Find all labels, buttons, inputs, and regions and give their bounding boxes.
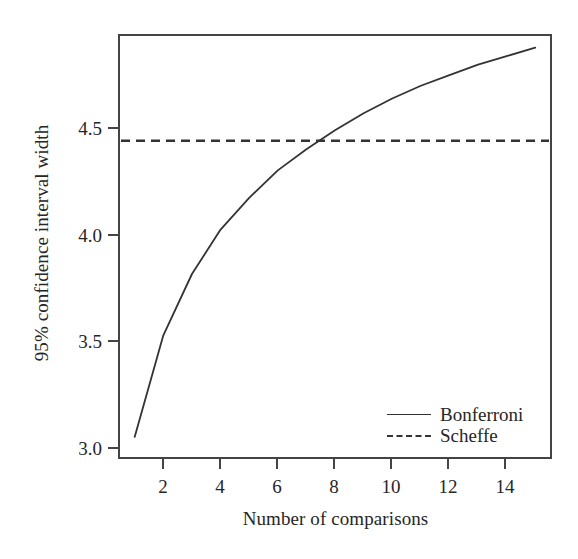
x-tick-label-8: 8	[314, 477, 354, 496]
x-axis-title: Number of comparisons	[119, 508, 552, 530]
x-tick-label-12: 12	[428, 477, 468, 496]
chart-figure: 4.5 4.0 3.5 3.0 2 4 6 8 10 12 14 95% con…	[0, 0, 578, 559]
legend-label-scheffe: Scheffe	[432, 425, 498, 447]
x-tick-label-4: 4	[200, 477, 240, 496]
dashed-line-key-icon	[386, 430, 432, 442]
x-tick-label-14: 14	[485, 477, 525, 496]
solid-line-key-icon	[386, 409, 432, 421]
x-tick-label-10: 10	[371, 477, 411, 496]
x-tick-label-6: 6	[257, 477, 297, 496]
legend-item-bonferroni: Bonferroni	[386, 404, 536, 425]
y-axis-title: 95% confidence interval width	[31, 83, 53, 403]
chart-legend: Bonferroni Scheffe	[386, 404, 536, 446]
x-axis-tick-labels: 2 4 6 8 10 12 14	[0, 0, 578, 559]
legend-item-scheffe: Scheffe	[386, 425, 536, 446]
x-tick-label-2: 2	[143, 477, 183, 496]
legend-label-bonferroni: Bonferroni	[432, 404, 523, 426]
